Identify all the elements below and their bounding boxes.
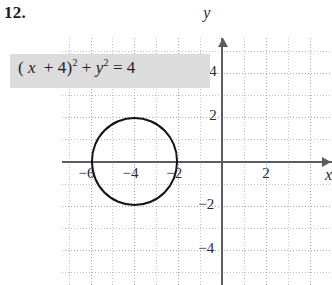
- problem-number: 12.: [4, 3, 26, 23]
- x-tick-label: −4: [122, 165, 138, 182]
- y-tick-label: −2: [198, 196, 214, 213]
- grid-line-horizontal: [62, 250, 332, 251]
- y-axis-arrow-icon: [218, 38, 228, 47]
- x-tick-label: 2: [262, 165, 270, 182]
- figure-page: 12. −6−4−2242−2−4 y x (x+4)2+y2=4: [0, 0, 332, 285]
- circle-curve: [91, 117, 179, 205]
- eq-rhs: 4: [127, 58, 136, 77]
- eq-plus-2: +: [82, 58, 92, 77]
- grid-line-horizontal: [62, 206, 332, 207]
- grid-line-horizontal: [62, 272, 332, 273]
- grid-line-horizontal: [62, 117, 332, 118]
- y-tick-label: −4: [198, 240, 214, 257]
- eq-var-x: x: [28, 58, 36, 77]
- grid-line-horizontal: [62, 95, 332, 96]
- grid-line-horizontal: [62, 228, 332, 229]
- eq-var-y: y: [96, 58, 104, 77]
- equation-text: (x+4)2+y2=4: [18, 58, 136, 78]
- eq-plus-1: +: [44, 58, 54, 77]
- x-tick-label: −6: [79, 165, 95, 182]
- x-tick-label: −2: [166, 165, 182, 182]
- x-axis-label: x: [325, 166, 332, 184]
- eq-exponent-2: 2: [104, 57, 109, 68]
- y-tick-label: 4: [209, 63, 217, 80]
- eq-exponent-1: 2: [73, 57, 78, 68]
- grid-line-horizontal: [62, 51, 332, 52]
- eq-const-4: 4: [58, 58, 67, 77]
- y-tick-label: 2: [209, 107, 217, 124]
- eq-equals: =: [113, 58, 123, 77]
- y-axis: [221, 38, 223, 285]
- y-axis-label: y: [203, 4, 210, 22]
- eq-open-paren: (: [18, 58, 24, 77]
